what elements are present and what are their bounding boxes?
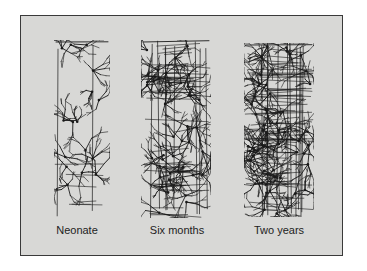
two-years-label: Two years: [254, 224, 304, 236]
neonate-label: Neonate: [56, 224, 98, 236]
two-years-dendrite-drawing: [244, 43, 314, 217]
figure-panel: Neonate Six months Two years: [20, 15, 343, 256]
neuron-network-illustration: [54, 40, 110, 218]
neuron-network-illustration: [141, 40, 211, 218]
neonate-dendrite-drawing: [54, 40, 110, 218]
neuron-network-illustration: [244, 43, 314, 217]
six-months-dendrite-drawing: [141, 40, 211, 218]
six-months-label: Six months: [150, 224, 204, 236]
